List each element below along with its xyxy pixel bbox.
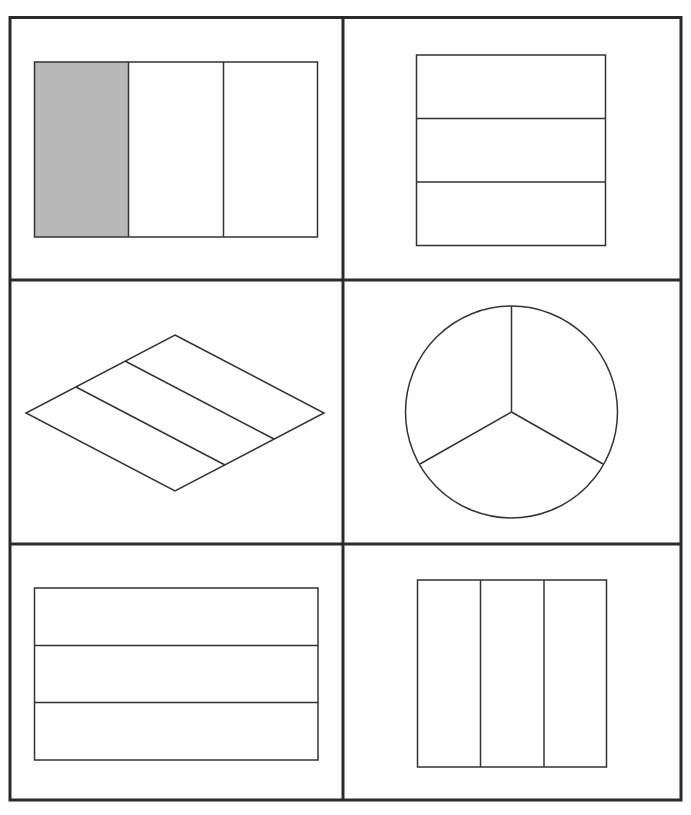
shape-outline bbox=[418, 580, 607, 767]
figure-canvas bbox=[0, 0, 691, 815]
cell-r1c1-rectangle-vertical-thirds bbox=[35, 62, 318, 237]
divider-line bbox=[125, 361, 274, 439]
shape-outline bbox=[35, 588, 319, 760]
cell-r3c1-rectangle-horizontal-thirds bbox=[35, 588, 319, 760]
divider-line bbox=[76, 387, 225, 465]
cell-r2c2-circle-thirds bbox=[406, 306, 618, 518]
fraction-shapes-figure bbox=[0, 0, 691, 815]
cell-r1c2-rectangle-horizontal-thirds bbox=[417, 55, 606, 246]
cell-r2c1-rhombus-thirds bbox=[26, 335, 324, 491]
shape-outline bbox=[26, 335, 324, 491]
shaded-part bbox=[35, 62, 129, 237]
cell-r3c2-rectangle-vertical-thirds bbox=[418, 580, 607, 767]
shape-outline bbox=[417, 55, 606, 246]
divider-line bbox=[512, 412, 604, 464]
divider-line bbox=[420, 412, 512, 464]
